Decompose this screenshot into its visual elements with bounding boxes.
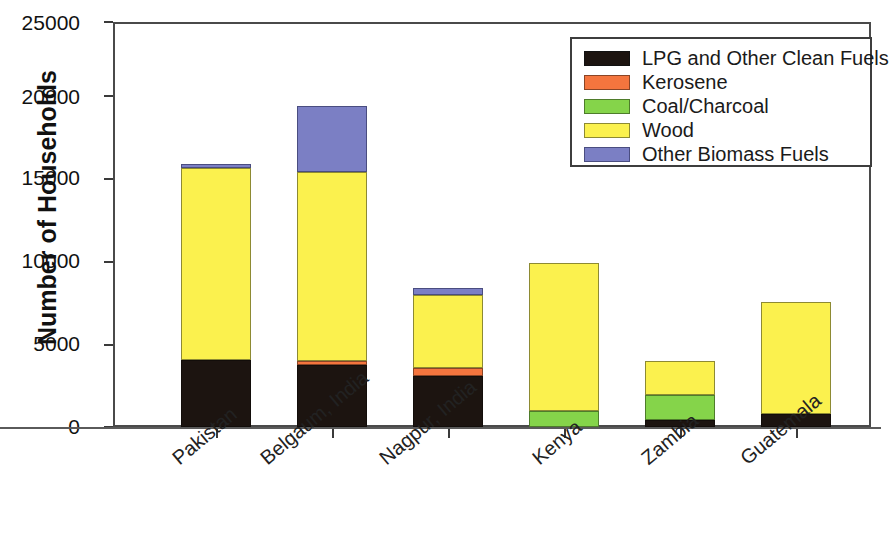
legend-swatch-lpg-icon	[584, 51, 630, 66]
x-axis-tick-belgaum	[332, 429, 334, 438]
bar-pakistan	[181, 0, 251, 427]
y-axis-tick-label-20000: 20000	[0, 86, 80, 107]
bar-segment-kerosene	[413, 368, 483, 376]
legend-item-biomass: Other Biomass Fuels	[584, 143, 829, 165]
x-axis-tick-nagpur	[448, 429, 450, 438]
legend-item-wood: Wood	[584, 119, 694, 141]
legend-label-biomass: Other Biomass Fuels	[642, 143, 829, 166]
bar-segment-biomass	[413, 288, 483, 294]
legend-label-wood: Wood	[642, 119, 694, 142]
y-axis-tick-label-10000: 10000	[0, 250, 80, 271]
y-axis-tick-10000	[104, 261, 113, 263]
bar-segment-wood	[529, 263, 599, 410]
bar-segment-kerosene	[297, 361, 367, 365]
legend-swatch-kerosene-icon	[584, 75, 630, 90]
bar-segment-biomass	[297, 106, 367, 172]
y-axis-tick-25000	[104, 21, 113, 23]
y-axis-tick-5000	[104, 344, 113, 346]
legend-label-kerosene: Kerosene	[642, 71, 728, 94]
legend: LPG and Other Clean Fuels Kerosene Coal/…	[570, 37, 872, 167]
legend-item-kerosene: Kerosene	[584, 71, 728, 93]
bar-segment-wood	[761, 302, 831, 414]
x-axis-line	[0, 427, 881, 429]
bar-segment-wood	[413, 295, 483, 368]
y-axis-tick-label-15000: 15000	[0, 167, 80, 188]
legend-swatch-biomass-icon	[584, 147, 630, 162]
bar-segment-wood	[645, 361, 715, 395]
y-axis-tick-label-5000: 5000	[0, 333, 80, 354]
legend-label-coal: Coal/Charcoal	[642, 95, 769, 118]
bar-segment-biomass	[181, 164, 251, 168]
y-axis-tick-label-25000: 25000	[0, 12, 80, 33]
bar-segment-wood	[297, 172, 367, 361]
bar-segment-wood	[181, 168, 251, 360]
legend-swatch-coal-icon	[584, 99, 630, 114]
y-axis-tick-20000	[104, 95, 113, 97]
legend-item-lpg: LPG and Other Clean Fuels	[584, 47, 889, 69]
legend-label-lpg: LPG and Other Clean Fuels	[642, 47, 889, 70]
bar-belgaum-india	[297, 0, 367, 427]
legend-item-coal: Coal/Charcoal	[584, 95, 769, 117]
legend-swatch-wood-icon	[584, 123, 630, 138]
y-axis-tick-15000	[104, 178, 113, 180]
bar-nagpur-india	[413, 0, 483, 427]
